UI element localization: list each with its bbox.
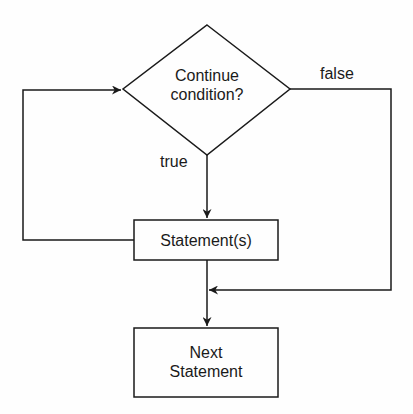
next-statement-label: Next Statement (134, 343, 278, 381)
flowchart-canvas: Continue condition? true false Statement… (0, 0, 413, 414)
loop-back-arrow (23, 90, 134, 240)
statement-label: Statement(s) (134, 231, 278, 250)
next-line-2: Statement (134, 362, 278, 381)
false-label: false (320, 64, 354, 83)
decision-line-2: condition? (150, 85, 264, 104)
decision-line-1: Continue (150, 66, 264, 85)
true-label: true (160, 152, 188, 171)
decision-label: Continue condition? (150, 66, 264, 104)
next-line-1: Next (134, 343, 278, 362)
